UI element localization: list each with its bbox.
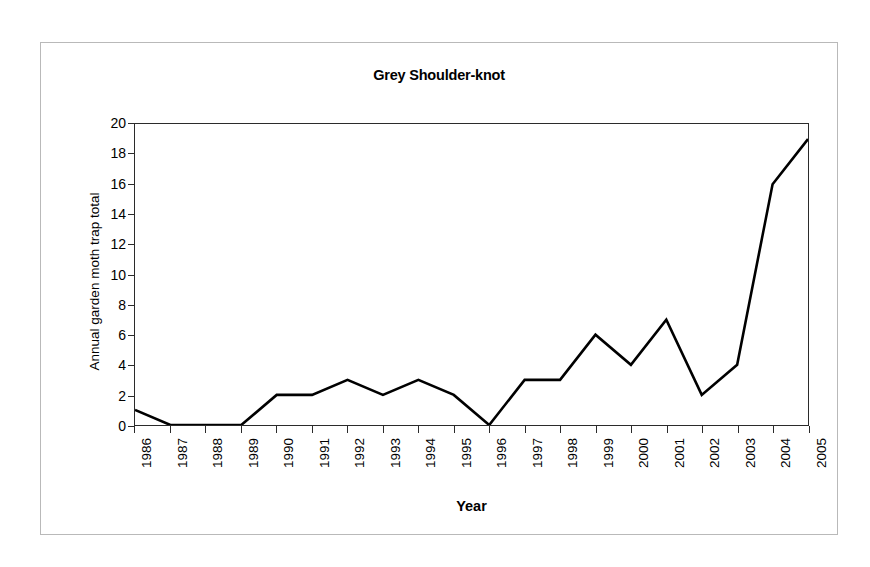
x-axis-tick-label: 1995 <box>460 438 474 468</box>
y-axis-tick-label: 0 <box>118 419 126 433</box>
x-axis-tick-mark <box>205 426 206 433</box>
x-axis-tick-label: 1990 <box>282 438 296 468</box>
x-axis-tick-label: 2004 <box>779 438 793 468</box>
x-axis-tick-mark <box>454 426 455 433</box>
x-axis-tick-mark <box>276 426 277 433</box>
y-axis-tick-label: 6 <box>118 328 126 342</box>
x-axis-tick-label: 1986 <box>140 438 154 468</box>
chart-figure: Grey Shoulder-knot Annual garden moth tr… <box>40 42 838 535</box>
x-axis-tick-label: 1997 <box>531 438 545 468</box>
y-axis-tick-label: 4 <box>118 358 126 372</box>
y-axis-tick-mark <box>128 365 134 366</box>
y-axis-tick-mark <box>128 305 134 306</box>
x-axis-tick-label: 1989 <box>247 438 261 468</box>
y-axis-tick-mark <box>128 335 134 336</box>
y-axis-tick-mark <box>128 153 134 154</box>
y-axis-tick-mark <box>128 275 134 276</box>
x-axis-tick-mark <box>347 426 348 433</box>
y-axis-tick-mark <box>128 244 134 245</box>
x-axis-tick-label: 1998 <box>566 438 580 468</box>
x-axis-tick-mark <box>738 426 739 433</box>
x-axis-tick-mark <box>631 426 632 433</box>
x-axis-tick-mark <box>170 426 171 433</box>
x-axis-tick-label: 2002 <box>708 438 722 468</box>
x-axis-tick-label: 1988 <box>211 438 225 468</box>
y-axis-tick-label: 20 <box>110 116 126 130</box>
x-axis-tick-label: 1992 <box>353 438 367 468</box>
plot-area <box>134 123 809 426</box>
x-axis-tick-mark <box>134 426 135 433</box>
y-axis-tick-label: 16 <box>110 177 126 191</box>
x-axis-tick-mark <box>383 426 384 433</box>
x-axis-tick-label: 2001 <box>673 438 687 468</box>
y-axis-tick-mark <box>128 184 134 185</box>
x-axis-tick-mark <box>312 426 313 433</box>
x-axis-tick-label: 2000 <box>637 438 651 468</box>
y-axis-tick-mark <box>128 396 134 397</box>
data-series-line <box>135 139 808 425</box>
x-axis-tick-mark <box>241 426 242 433</box>
x-axis-tick-label: 1994 <box>424 438 438 468</box>
x-axis-tick-mark <box>525 426 526 433</box>
y-axis-tick-label: 12 <box>110 237 126 251</box>
y-axis-tick-label: 10 <box>110 268 126 282</box>
y-axis-tick-mark <box>128 214 134 215</box>
x-axis-tick-mark <box>809 426 810 433</box>
x-axis-tick-mark <box>418 426 419 433</box>
x-axis-tick-label: 1996 <box>495 438 509 468</box>
x-axis-tick-label: 2005 <box>815 438 829 468</box>
y-axis-tick-labels: 02468101214161820 <box>74 123 126 426</box>
data-line-svg <box>135 124 808 425</box>
x-axis-tick-mark <box>560 426 561 433</box>
x-axis-tick-mark <box>596 426 597 433</box>
x-axis-tick-mark <box>702 426 703 433</box>
y-axis-tick-mark <box>128 123 134 124</box>
x-axis-title: Year <box>134 498 809 514</box>
y-axis-tick-label: 8 <box>118 298 126 312</box>
x-axis-tick-mark <box>773 426 774 433</box>
x-axis-tick-mark <box>667 426 668 433</box>
y-axis-tick-label: 14 <box>110 207 126 221</box>
x-axis-tick-label: 1987 <box>176 438 190 468</box>
x-axis-tick-label: 2003 <box>744 438 758 468</box>
x-axis-tick-label: 1991 <box>318 438 332 468</box>
x-axis-tick-label: 1993 <box>389 438 403 468</box>
y-axis-tick-label: 18 <box>110 146 126 160</box>
chart-title: Grey Shoulder-knot <box>41 67 837 83</box>
x-axis-tick-label: 1999 <box>602 438 616 468</box>
x-axis-tick-mark <box>489 426 490 433</box>
y-axis-tick-label: 2 <box>118 389 126 403</box>
